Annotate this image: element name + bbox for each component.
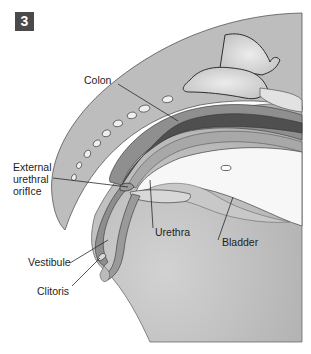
label-bladder: Bladder bbox=[222, 236, 258, 248]
label-clitoris: Clitoris bbox=[37, 285, 69, 297]
label-colon: Colon bbox=[84, 74, 111, 86]
label-urethra: Urethra bbox=[155, 226, 190, 238]
label-external-urethral-orifice: External urethral orifIce bbox=[13, 161, 52, 197]
anatomy-figure: 3 bbox=[0, 0, 311, 354]
label-vestibule: Vestibule bbox=[28, 256, 71, 268]
